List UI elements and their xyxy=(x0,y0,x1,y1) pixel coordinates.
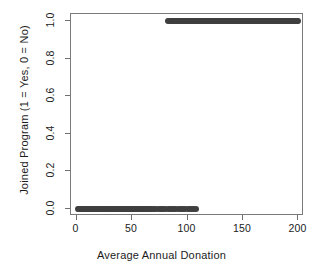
y-axis-tick-label: 1.0 xyxy=(44,8,56,32)
y-axis-tick-label: 0.4 xyxy=(44,121,56,145)
y-axis-tick xyxy=(65,208,70,209)
x-axis-tick-label: 200 xyxy=(288,222,306,234)
x-axis-tick-label: 100 xyxy=(177,222,195,234)
x-axis-tick-label: 0 xyxy=(73,222,79,234)
x-axis-tick xyxy=(76,215,77,220)
x-axis-label: Average Annual Donation xyxy=(0,249,323,261)
scatter-plot-figure: Average Annual Donation Joined Program (… xyxy=(0,0,323,277)
y-axis-tick xyxy=(65,20,70,21)
y-axis-tick xyxy=(65,58,70,59)
y-axis-tick xyxy=(65,133,70,134)
data-point xyxy=(295,18,301,24)
y-axis-tick xyxy=(65,95,70,96)
y-axis-tick xyxy=(65,170,70,171)
x-axis-tick xyxy=(131,215,132,220)
y-axis-tick-label: 0.0 xyxy=(44,196,56,220)
x-axis-tick xyxy=(242,215,243,220)
data-point-layer xyxy=(71,14,302,214)
y-axis-tick-label: 0.2 xyxy=(44,158,56,182)
y-axis-tick-label: 0.8 xyxy=(44,46,56,70)
y-axis-tick-label: 0.6 xyxy=(44,83,56,107)
x-axis-tick-label: 150 xyxy=(233,222,251,234)
x-axis-tick-label: 50 xyxy=(125,222,137,234)
y-axis-label: Joined Program (1 = Yes, 0 = No) xyxy=(18,0,30,220)
x-axis-tick xyxy=(187,215,188,220)
data-point xyxy=(193,206,199,212)
x-axis-tick xyxy=(297,215,298,220)
plot-area-frame xyxy=(70,13,303,215)
